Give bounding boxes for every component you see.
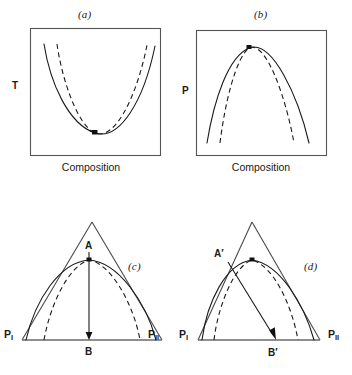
panel-d-tie-line [228,262,273,335]
panel-a-azeotropic-point-marker [92,130,98,135]
panel-c-tie-line-arrowhead [86,332,93,340]
panel-d-plot [176,190,352,375]
panel-c-triangle-left-edge [22,222,92,340]
panel-b-azeotropic-point-marker [247,45,252,49]
panel-b: (b) P Composition [176,0,352,190]
panel-d-solid-curve [202,260,314,340]
panel-a-dashed-curve [57,44,147,134]
panel-c-plait-point-marker [87,258,92,262]
panel-d-plait-point-marker [250,258,255,262]
panel-d-triangle-left-edge [198,222,252,340]
panel-d: MII (d) A′ B′ PI PII [176,190,352,375]
panel-a: (a) T Composition [0,0,176,190]
panel-c: Solvent (c) A B PI PII [0,190,176,375]
panel-c-plot [0,190,176,375]
panel-d-tie-line-arrowhead [269,327,276,340]
panel-d-triangle-right-edge [252,222,320,340]
panel-b-dashed-curve [220,47,294,143]
panel-c-triangle-right-edge [92,222,162,340]
panel-a-plot [0,0,176,190]
panel-c-dashed-curve [44,260,140,340]
panel-b-plot [176,0,352,190]
figure-container: (a) T Composition (b) P Composition Solv… [0,0,352,375]
panel-d-dashed-curve [214,260,298,340]
panel-b-solid-curve [207,47,309,143]
panel-a-solid-curve [44,44,155,134]
